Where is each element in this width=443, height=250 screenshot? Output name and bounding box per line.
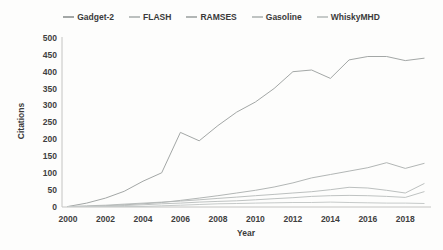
citations-chart-figure: Gadget-2FLASHRAMSESGasolineWhiskyMHD Cit… bbox=[0, 0, 443, 250]
x-tick-label: 2016 bbox=[358, 214, 377, 224]
x-axis-title: Year bbox=[68, 228, 424, 238]
y-tick-label: 0 bbox=[52, 202, 57, 212]
x-tick-label: 2012 bbox=[283, 214, 302, 224]
y-tick-label: 100 bbox=[43, 168, 57, 178]
y-tick-label: 500 bbox=[43, 33, 57, 43]
x-tick-label: 2004 bbox=[133, 214, 152, 224]
y-tick-label: 350 bbox=[43, 84, 57, 94]
y-tick-label: 200 bbox=[43, 134, 57, 144]
x-tick-label: 2002 bbox=[96, 214, 115, 224]
y-tick-label: 300 bbox=[43, 100, 57, 110]
y-tick-label: 150 bbox=[43, 151, 57, 161]
y-tick-label: 50 bbox=[48, 185, 58, 195]
series-line-gadget-2 bbox=[68, 57, 424, 207]
plot-area: 0501001502002503003504004505002000200220… bbox=[0, 0, 443, 250]
x-tick-label: 2014 bbox=[321, 214, 340, 224]
y-tick-label: 250 bbox=[43, 117, 57, 127]
x-tick-label: 2006 bbox=[171, 214, 190, 224]
x-tick-label: 2010 bbox=[246, 214, 265, 224]
x-tick-label: 2008 bbox=[208, 214, 227, 224]
x-tick-label: 2018 bbox=[396, 214, 415, 224]
y-tick-label: 400 bbox=[43, 67, 57, 77]
x-tick-label: 2000 bbox=[59, 214, 78, 224]
y-tick-label: 450 bbox=[43, 50, 57, 60]
